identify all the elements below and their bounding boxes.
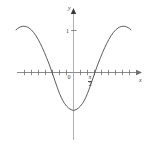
x-axis-label: x [139,77,142,83]
y-axis-tick-label-one: 1 [66,28,69,34]
origin-label: 0 [68,74,71,80]
math-figure-cosine-graph: y x 1 0 π 2 [0,0,149,149]
x-axis-tick-label-pi-over-two: π 2 [86,75,94,88]
two-denominator: 2 [86,82,94,88]
plot-canvas [0,0,149,149]
y-axis-label: y [68,5,71,11]
x-axis-arrowhead [136,70,142,75]
y-axis-arrowhead [71,8,76,14]
